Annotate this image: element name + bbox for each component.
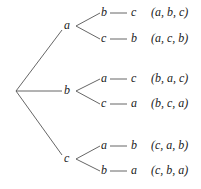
permutation-label: (a, c, b) <box>151 32 188 44</box>
node-level1-b: b <box>64 84 70 96</box>
node-level2-c: c <box>101 32 106 44</box>
permutation-label: (a, b, c) <box>151 6 188 18</box>
node-level2-a: a <box>101 72 107 84</box>
edge-l1-l2 <box>76 159 100 171</box>
node-level1-a: a <box>64 19 70 31</box>
node-level1-c: c <box>64 152 69 164</box>
permutation-label: (c, b, a) <box>151 164 188 176</box>
node-level2-c: c <box>101 97 106 109</box>
node-level3-c: c <box>131 72 136 84</box>
edge-l1-l2 <box>76 91 100 104</box>
edge-l1-l2 <box>76 146 100 159</box>
permutation-label: (c, a, b) <box>151 139 188 151</box>
tree-edges <box>0 0 201 189</box>
node-level3-b: b <box>131 139 137 151</box>
node-level2-b: b <box>101 164 107 176</box>
permutation-tree-diagram: abcbc(a, b, c)cb(a, c, b)ac(b, a, c)ca(b… <box>0 0 201 189</box>
node-level3-a: a <box>131 164 137 176</box>
node-level2-a: a <box>101 139 107 151</box>
edge-l1-l2 <box>76 13 100 26</box>
node-level3-a: a <box>131 97 137 109</box>
permutation-label: (b, a, c) <box>151 72 188 84</box>
permutation-label: (b, c, a) <box>151 97 188 109</box>
edge-root-c <box>16 91 62 155</box>
edge-root-a <box>16 30 62 91</box>
node-level3-c: c <box>131 6 136 18</box>
node-level3-b: b <box>131 32 137 44</box>
edge-l1-l2 <box>76 26 100 39</box>
node-level2-b: b <box>101 6 107 18</box>
edge-l1-l2 <box>76 79 100 91</box>
